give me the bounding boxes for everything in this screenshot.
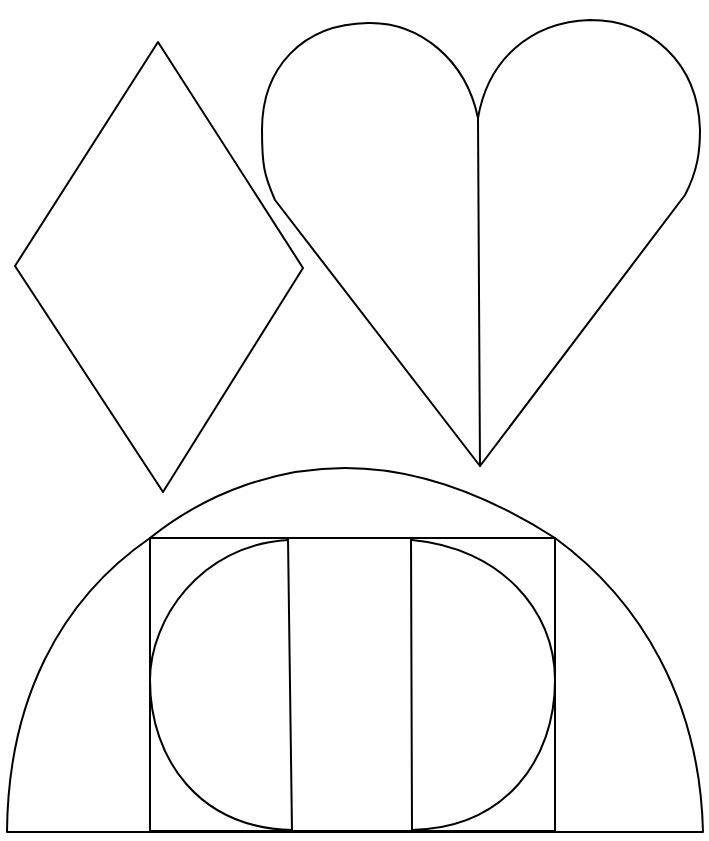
dome-shape [7,468,703,832]
diamond-shape [15,42,303,492]
diagram-canvas [0,0,709,841]
inner-circle-left [150,540,292,830]
inner-rectangle [150,538,555,831]
divider-left [288,538,292,831]
heart-shape [262,20,700,466]
divider-right [411,538,412,831]
heart-center-line [478,118,480,466]
inner-circle-right [412,540,555,830]
